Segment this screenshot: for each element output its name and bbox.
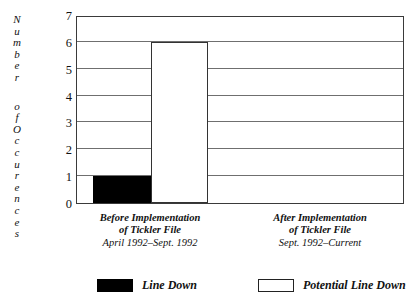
- y-axis-tick-3: 3: [50, 117, 72, 130]
- legend-swatch-hollow: [258, 279, 294, 292]
- gridline-5: [77, 68, 403, 69]
- legend-label: Line Down: [142, 278, 197, 293]
- y-axis-title-letter: c: [4, 205, 30, 217]
- y-axis-title-letter: s: [4, 228, 30, 240]
- legend-item-potential-line-down[interactable]: Potential Line Down: [258, 278, 406, 293]
- y-axis-tick-labels: 01234567: [50, 0, 72, 300]
- y-axis-tick-4: 4: [50, 91, 72, 104]
- category-label-after-line1: After Implementation: [230, 212, 410, 224]
- y-axis-title: Number ofOccurences: [4, 14, 30, 240]
- y-axis-tick-7: 7: [50, 10, 72, 23]
- gridline-2: [77, 148, 403, 149]
- category-label-after-daterange: Sept. 1992–Current: [230, 237, 410, 249]
- y-axis-tick-2: 2: [50, 144, 72, 157]
- gridline-6: [77, 41, 403, 42]
- y-axis-tick-0: 0: [50, 198, 72, 211]
- chart-legend: Line DownPotential Line Down: [0, 278, 418, 298]
- category-label-after: After Implementation of Tickler File Sep…: [230, 212, 410, 250]
- y-axis-tick-1: 1: [50, 171, 72, 184]
- plot-area: [76, 16, 404, 204]
- y-axis-title-letter: r: [4, 72, 30, 84]
- category-label-before-daterange: April 1992–Sept. 1992: [60, 237, 240, 249]
- y-axis-title-letter: f: [4, 112, 30, 124]
- category-label-before: Before Implementation of Tickler File Ap…: [60, 212, 240, 250]
- y-axis-title-letter: c: [4, 147, 30, 159]
- category-label-before-line2: of Tickler File: [60, 224, 240, 236]
- legend-item-line-down[interactable]: Line Down: [97, 278, 197, 293]
- gridline-3: [77, 121, 403, 122]
- bar-before-potential-line-down: [151, 42, 208, 203]
- legend-swatch-filled: [97, 279, 133, 292]
- gridline-4: [77, 95, 403, 96]
- legend-label: Potential Line Down: [303, 278, 406, 293]
- y-axis-title-gap: [4, 84, 30, 101]
- bar-before-line-down: [93, 176, 151, 203]
- category-label-before-line1: Before Implementation: [60, 212, 240, 224]
- y-axis-tick-5: 5: [50, 64, 72, 77]
- y-axis-title-letter: r: [4, 170, 30, 182]
- category-label-after-line2: of Tickler File: [230, 224, 410, 236]
- y-axis-title-letter: N: [4, 14, 30, 26]
- y-axis-tick-6: 6: [50, 37, 72, 50]
